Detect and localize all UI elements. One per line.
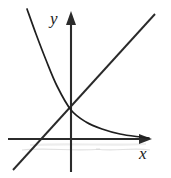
axes-group [8,11,152,172]
smudge-under-axis-left [22,149,100,150]
y-axis-label: y [50,10,58,27]
exponential-decay-curve [27,9,149,138]
graph-figure: y x [0,0,171,178]
smudge-soft-band [30,144,146,145]
scan-artifacts [22,144,150,150]
plot-series-group [13,9,155,170]
linear-identity-curve [13,14,155,170]
y-axis-arrowhead [66,11,76,25]
x-axis-arrowhead [139,134,152,144]
x-axis-label: x [139,145,147,162]
